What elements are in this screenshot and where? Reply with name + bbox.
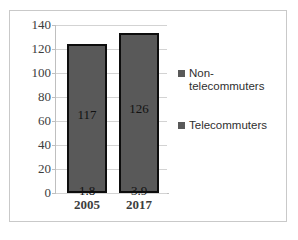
- chart-legend: Non-telecommutersTelecommuters: [178, 67, 284, 158]
- y-axis-tick: [52, 25, 56, 26]
- gridline: [55, 25, 167, 26]
- y-axis-tick-label: 120: [11, 43, 51, 55]
- bar-segment-non-telecommuters[interactable]: 126: [119, 33, 159, 184]
- bar-value-label: 126: [121, 101, 157, 117]
- legend-entry[interactable]: Telecommuters: [178, 119, 284, 132]
- legend-label: Non-telecommuters: [189, 67, 284, 93]
- bar-segment-telecommuters[interactable]: 3.9: [119, 184, 159, 193]
- clipped-chart-title: [0, 0, 298, 9]
- x-axis-labels: 20052017: [55, 197, 169, 215]
- legend-swatch-icon: [178, 70, 185, 77]
- chart-frame: 140120100806040200 1171.81263.9 20052017…: [9, 10, 287, 222]
- y-axis-tick: [52, 49, 56, 50]
- y-axis-labels: 140120100806040200: [10, 25, 51, 193]
- y-axis-tick-label: 40: [11, 139, 51, 151]
- y-axis-tick: [52, 73, 56, 74]
- y-axis-tick-label: 60: [11, 115, 51, 127]
- bar-group[interactable]: 1171.8: [67, 44, 107, 193]
- bar-segment-non-telecommuters[interactable]: 117: [67, 44, 107, 184]
- y-axis-tick: [52, 97, 56, 98]
- x-axis-category-label: 2017: [114, 197, 164, 213]
- bar-segment-telecommuters[interactable]: 1.8: [67, 184, 107, 193]
- plot-area: 1171.81263.9: [55, 25, 167, 193]
- legend-label: Telecommuters: [189, 119, 267, 132]
- y-axis-tick-label: 0: [11, 187, 51, 199]
- bar-value-label: 117: [69, 106, 105, 122]
- y-axis-tick: [52, 193, 56, 194]
- y-axis-tick-label: 20: [11, 163, 51, 175]
- legend-swatch-icon: [178, 122, 185, 129]
- y-axis-tick: [52, 145, 56, 146]
- bar-group[interactable]: 1263.9: [119, 33, 159, 193]
- y-axis-tick-label: 100: [11, 67, 51, 79]
- y-axis-tick: [52, 121, 56, 122]
- y-axis-tick-label: 80: [11, 91, 51, 103]
- x-axis-category-label: 2005: [62, 197, 112, 213]
- y-axis-tick-label: 140: [11, 19, 51, 31]
- legend-entry[interactable]: Non-telecommuters: [178, 67, 284, 93]
- y-axis-tick: [52, 169, 56, 170]
